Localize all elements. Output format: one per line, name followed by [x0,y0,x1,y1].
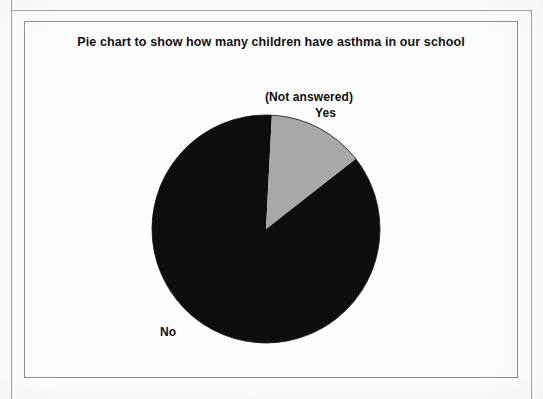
pie-chart-graphic [0,0,543,399]
pie-label-yes: Yes [315,106,336,120]
chart-page: Pie chart to show how many children have… [0,0,543,399]
pie-label-not-answered: (Not answered) [265,90,353,104]
pie-label-no: No [160,325,176,339]
